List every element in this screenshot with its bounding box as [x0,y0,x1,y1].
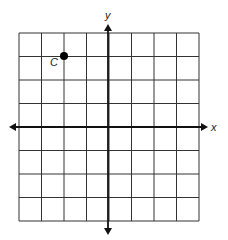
points: C [50,52,68,68]
point-c-marker [60,52,68,60]
y-axis-down-arrow-icon [104,228,112,235]
y-axis-up-arrow-icon [104,24,112,31]
x-axis-label: x [210,121,217,133]
coordinate-plane: x y C [0,0,228,240]
x-axis-left-arrow-icon [9,123,16,131]
x-axis-right-arrow-icon [201,123,208,131]
y-axis-label: y [104,9,112,21]
axes: x y [9,9,217,235]
point-c-label: C [50,56,58,68]
